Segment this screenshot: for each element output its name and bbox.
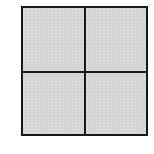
- grid-cell-top-left: [23, 8, 84, 71]
- grid-cell-bottom-right: [86, 73, 146, 134]
- two-by-two-grid: [21, 6, 148, 136]
- grid-cell-top-right: [86, 8, 146, 71]
- diagram-canvas: [0, 0, 154, 154]
- grid-cell-bottom-left: [23, 73, 84, 134]
- horizontal-divider: [23, 71, 146, 73]
